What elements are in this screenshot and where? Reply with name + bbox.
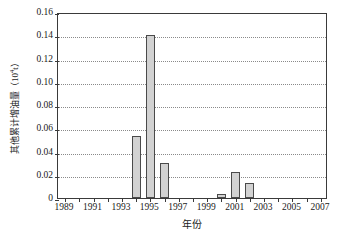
y-axis-tick-mark	[55, 154, 59, 155]
bar	[146, 35, 155, 198]
y-axis-tick-mark	[55, 61, 59, 62]
bar	[245, 183, 254, 198]
y-axis-tick-label: 0.10	[22, 78, 53, 88]
x-axis-title: 年份	[57, 219, 327, 231]
y-axis-tick-label: 0.12	[22, 55, 53, 65]
y-axis-tick-mark	[55, 200, 59, 201]
y-axis-title-exponent: 4	[8, 70, 15, 73]
y-axis-tick-label: 0.16	[22, 8, 53, 18]
y-axis-tick-mark	[55, 107, 59, 108]
gridline	[58, 130, 326, 131]
y-axis-tick-labels: 00.020.040.060.080.100.120.140.16	[22, 13, 53, 199]
gridline	[58, 37, 326, 38]
bar	[231, 172, 240, 198]
y-axis-tick-label: 0.08	[22, 101, 53, 111]
y-axis-tick-mark	[55, 130, 59, 131]
y-axis-title: 其他累计增油量（104t）	[8, 13, 22, 199]
y-axis-tick-mark	[55, 14, 59, 15]
y-axis-tick-label: 0.06	[22, 124, 53, 134]
gridline	[58, 84, 326, 85]
bar	[132, 136, 141, 198]
y-axis-tick-mark	[55, 177, 59, 178]
gridline	[58, 154, 326, 155]
gridline	[58, 107, 326, 108]
bar	[160, 163, 169, 198]
y-axis-tick-label: 0.14	[22, 31, 53, 41]
y-axis-title-base: 其他累计增油量（10	[10, 73, 20, 154]
y-axis-tick-label: 0.04	[22, 148, 53, 158]
plot-area	[57, 13, 327, 199]
y-axis-tick-mark	[55, 37, 59, 38]
bar	[217, 194, 226, 198]
gridline	[58, 61, 326, 62]
gridline	[58, 177, 326, 178]
y-axis-title-tail: t）	[10, 58, 20, 70]
y-axis-tick-label: 0.02	[22, 171, 53, 181]
x-axis-tick-label: 2007	[300, 202, 340, 213]
x-axis-tick-labels: 1989199119931995199719992001200320052007	[57, 202, 327, 216]
y-axis-tick-mark	[55, 84, 59, 85]
bar-chart: 其他累计增油量（104t） 00.020.040.060.080.100.120…	[0, 0, 343, 243]
